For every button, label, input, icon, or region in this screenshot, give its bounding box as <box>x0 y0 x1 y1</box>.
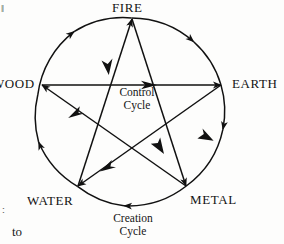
creation-edge-water-wood <box>39 142 78 187</box>
creation-edge-metal-water <box>124 186 186 206</box>
arrowhead-earth-water-mid <box>197 129 213 141</box>
node-label-metal: METAL <box>190 193 237 206</box>
arrowhead-fire-metal-mid <box>151 138 164 154</box>
node-label-wood: WOOD <box>0 77 35 90</box>
creation-arc-fire-earth-tail <box>194 42 221 85</box>
node-label-earth: EARTH <box>232 77 278 90</box>
creation-cycle-circle <box>35 18 225 206</box>
creation-cycle-label: Creation Cycle <box>101 212 165 238</box>
arrowhead-water-fire-mid <box>102 59 113 75</box>
node-label-fire: FIRE <box>112 1 143 14</box>
node-label-water: WATER <box>27 194 73 207</box>
creation-arc-water-wood-tail <box>35 95 38 142</box>
creation-cycle-label-line1: Creation <box>101 212 165 225</box>
creation-edge-fire-earth <box>132 18 194 42</box>
five-elements-diagram-page: FIRE EARTH METAL WATER WOOD Control Cycl… <box>0 0 284 244</box>
page-scrap-left-mark: ∶ <box>2 205 5 218</box>
creation-arc-metal-water-tail <box>78 187 124 206</box>
page-scrap-top-mark: ‖ <box>1 2 4 14</box>
creation-edge-earth-metal <box>221 85 225 130</box>
control-cycle-label-line2: Cycle <box>110 99 164 112</box>
creation-arc-wood-fire-tail <box>74 18 131 32</box>
page-scrap-bottom-text: to <box>12 224 22 240</box>
control-cycle-label-line1: Control <box>110 86 164 99</box>
creation-cycle-label-line2: Cycle <box>101 225 165 238</box>
control-cycle-label: Control Cycle <box>110 86 164 112</box>
